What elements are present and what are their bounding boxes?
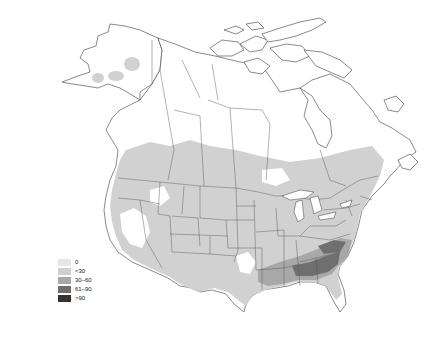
legend-item-3: 61–90 bbox=[58, 285, 92, 294]
legend: 0 <30 30–60 61–90 >90 bbox=[58, 258, 92, 303]
alaska bbox=[62, 24, 162, 100]
legend-swatch bbox=[58, 268, 71, 275]
legend-swatch bbox=[58, 295, 71, 302]
legend-item-1: <30 bbox=[58, 267, 92, 276]
legend-swatch bbox=[58, 277, 71, 284]
legend-item-2: 30–60 bbox=[58, 276, 92, 285]
legend-swatch bbox=[58, 259, 71, 266]
legend-label: 0 bbox=[75, 259, 78, 266]
legend-label: 30–60 bbox=[75, 277, 92, 284]
legend-label: 61–90 bbox=[75, 286, 92, 293]
legend-item-0: 0 bbox=[58, 258, 92, 267]
legend-label: >90 bbox=[75, 295, 85, 302]
legend-label: <30 bbox=[75, 268, 85, 275]
legend-item-4: >90 bbox=[58, 294, 92, 303]
legend-swatch bbox=[58, 286, 71, 293]
